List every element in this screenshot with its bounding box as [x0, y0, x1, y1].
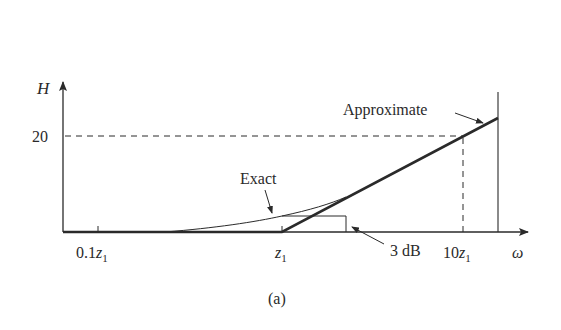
three-db-box	[282, 216, 346, 232]
x-tick-label-z1: z1	[274, 244, 287, 264]
approximate-curve	[63, 118, 498, 232]
x-tick-label-10z1: 10z1	[443, 244, 471, 264]
approximate-pointer-arrow	[455, 113, 483, 123]
approximate-label: Approximate	[343, 101, 427, 119]
bode-magnitude-plot: H 20 ω Approximate Exact 3 dB 0.1z1 z1 1…	[0, 0, 561, 330]
exact-curve	[165, 197, 346, 232]
x-axis-label: ω	[512, 244, 523, 261]
exact-label: Exact	[240, 170, 277, 187]
exact-pointer-arrow	[265, 190, 272, 213]
three-db-label: 3 dB	[390, 242, 421, 259]
y-axis-label: H	[36, 79, 51, 98]
three-db-pointer-arrow	[352, 227, 384, 244]
y-tick-20-label: 20	[32, 128, 48, 145]
x-tick-label-0.1z1: 0.1z1	[76, 244, 108, 264]
figure-caption: (a)	[268, 290, 286, 308]
